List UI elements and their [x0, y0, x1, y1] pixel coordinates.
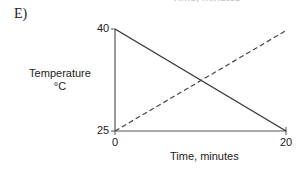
plot-area [0, 0, 304, 170]
solid-series-line [115, 29, 286, 131]
